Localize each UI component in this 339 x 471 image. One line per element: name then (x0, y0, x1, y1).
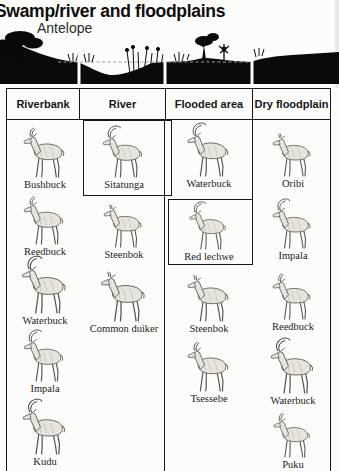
floodplain-tree-icon (195, 33, 219, 60)
animal-label: Steenbok (163, 323, 255, 334)
antelope-illustration (178, 336, 241, 392)
animal-label: Reedbuck (247, 321, 339, 332)
animal-label: Impala (247, 250, 339, 261)
animal-label: Waterbuck (247, 395, 339, 406)
column-header-riverbank: Riverbank (7, 89, 79, 119)
column-header-river: River (79, 89, 165, 119)
antelope-illustration (95, 196, 153, 248)
animal-label: Common duiker (78, 323, 170, 334)
antelope-illustration (181, 200, 237, 250)
antelope-illustration (15, 328, 75, 382)
animal-label: Waterbuck (163, 178, 255, 189)
antelope-illustration (264, 125, 322, 177)
antelope-illustration (261, 336, 326, 394)
animal-label: Red lechwe (163, 251, 255, 262)
antelope-illustration (14, 122, 77, 178)
antelope-illustration (94, 124, 154, 178)
animal-label: Sitatunga (78, 179, 170, 190)
antelope-illustration (178, 121, 241, 177)
segment-divider (78, 54, 81, 84)
column-header-flooded-area: Flooded area (165, 89, 252, 119)
antelope-illustration (178, 266, 241, 322)
animal-label: Oribi (247, 178, 339, 189)
table-header-row: Riverbank River Flooded area Dry floodpl… (6, 88, 331, 120)
segment-divider (251, 54, 254, 84)
guide-page: Swamp/river and floodplains Antelope (0, 0, 339, 471)
animal-label: Impala (0, 383, 91, 394)
antelope-illustration (91, 262, 158, 322)
habitat-cross-section-illustration (0, 28, 339, 84)
column-header-dry-floodplain: Dry floodplain (252, 89, 330, 119)
antelope-illustration (15, 191, 75, 245)
antelope-illustration (264, 197, 322, 249)
animal-label: Tsessebe (163, 393, 255, 404)
animal-label: Steenbok (78, 249, 170, 260)
segment-divider (164, 54, 167, 84)
star-flower-icon (219, 44, 229, 60)
antelope-illustration (13, 397, 78, 455)
antelope-illustration (265, 408, 321, 458)
antelope-illustration (12, 254, 79, 314)
antelope-illustration (264, 268, 322, 320)
animal-label: Puku (247, 459, 339, 470)
page-title: Swamp/river and floodplains (0, 1, 225, 22)
animal-label: Kudu (0, 456, 91, 467)
